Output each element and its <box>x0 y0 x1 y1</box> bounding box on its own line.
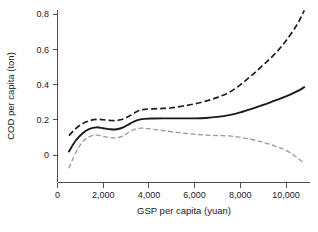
y-tick-label: 0.8 <box>36 9 49 19</box>
axes-group <box>58 10 311 183</box>
curves-group <box>69 10 304 168</box>
y-tick-label: 0.2 <box>36 115 49 125</box>
x-tick-label: 10,000 <box>272 190 300 200</box>
y-tick-label: 0 <box>44 150 49 160</box>
x-tick-label: 8,000 <box>229 190 252 200</box>
curve-upper-bound <box>69 10 304 135</box>
x-tick-label: 4,000 <box>138 190 161 200</box>
y-axis-ticks: 00.20.40.60.8 <box>36 9 57 160</box>
x-tick-label: 0 <box>55 190 60 200</box>
x-axis-ticks: 02,0004,0006,0008,00010,000 <box>55 183 300 201</box>
chart-figure: 00.20.40.60.8 02,0004,0006,0008,00010,00… <box>0 0 318 232</box>
chart-plot-area: 00.20.40.60.8 02,0004,0006,0008,00010,00… <box>0 0 318 232</box>
x-tick-label: 6,000 <box>183 190 206 200</box>
x-axis-title: GSP per capita (yuan) <box>137 205 231 216</box>
y-tick-label: 0.4 <box>36 80 49 90</box>
y-tick-label: 0.6 <box>36 45 49 55</box>
x-tick-label: 2,000 <box>92 190 115 200</box>
curve-lower-bound <box>69 128 304 168</box>
y-axis-title: COD per capita (ton) <box>5 52 16 140</box>
